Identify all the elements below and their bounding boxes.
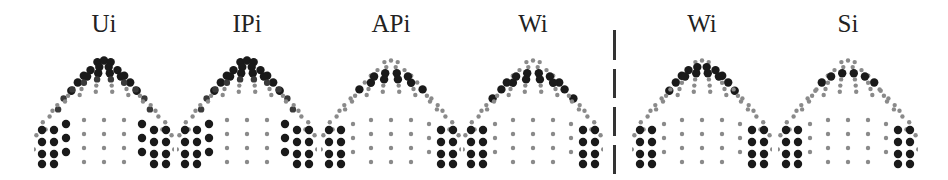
sensor-dot — [495, 94, 499, 98]
sensor-dot — [108, 76, 114, 82]
sensor-dot — [264, 80, 270, 86]
sensor-dot — [305, 138, 313, 146]
sensor-dot — [724, 78, 732, 86]
sensor-dot — [122, 132, 126, 136]
sensor-dot — [437, 138, 445, 146]
sensor-dot — [636, 150, 644, 158]
sensor-dot — [41, 120, 45, 124]
sensor-dot — [122, 160, 126, 164]
sensor-dot — [841, 65, 845, 69]
sensor-dot — [467, 150, 475, 158]
sensor-dot — [284, 99, 288, 103]
sensor-dot — [193, 109, 197, 113]
sensor-dot — [507, 93, 511, 97]
sensor-dot — [832, 68, 836, 72]
sensor-dot — [435, 107, 439, 111]
sensor-dot — [132, 86, 138, 92]
sensor-dot — [225, 132, 229, 136]
sensor-dot — [493, 136, 497, 140]
sensor-dot — [124, 87, 128, 91]
sensor-dot — [81, 80, 87, 86]
sensor-dot — [722, 87, 726, 91]
sensor-dot — [676, 93, 680, 97]
sensor-dot — [436, 103, 440, 107]
sensor-dot — [62, 148, 70, 156]
sensor-dot — [818, 78, 826, 86]
sensor-dot — [380, 75, 388, 83]
sensor-dot — [409, 146, 413, 150]
sensor-dot — [245, 160, 249, 164]
sensor-dot — [177, 147, 179, 151]
sensor-dot — [138, 120, 146, 128]
sensor-dot — [184, 120, 188, 124]
sensor-dot — [708, 83, 712, 87]
sensor-dot — [720, 118, 724, 122]
sensor-dot — [632, 133, 636, 137]
sensor-dot — [342, 103, 346, 107]
sensor-dot — [700, 118, 704, 122]
sensor-dot — [397, 83, 401, 87]
sensor-dot — [539, 90, 543, 94]
sensor-dot — [437, 160, 445, 168]
sensor-dot — [260, 72, 268, 80]
sensor-dot — [427, 122, 431, 126]
sensor-dot — [808, 150, 812, 154]
sensor-dot — [846, 118, 850, 122]
sensor-dot — [794, 126, 802, 134]
sensor-dot — [598, 133, 602, 137]
sensor-dot — [648, 160, 656, 168]
sensor-dot — [531, 118, 535, 122]
sensor-dot — [807, 99, 811, 103]
sensor-dot — [632, 147, 634, 151]
sensor-dot — [839, 60, 843, 64]
sensor-dot — [138, 148, 146, 156]
sensor-dot — [193, 160, 201, 168]
divider-dash — [613, 30, 616, 60]
sensor-dot — [193, 150, 201, 158]
sensor-dot — [267, 87, 271, 91]
sensor-dot — [66, 94, 70, 98]
sensor-dot — [826, 81, 830, 85]
sensor-dot — [38, 160, 46, 168]
sensor-dot — [680, 160, 684, 164]
sensor-dot — [351, 122, 355, 126]
sensor-dot — [868, 87, 872, 91]
panel-wi-right: Wi — [632, 0, 772, 180]
sensor-dot — [312, 133, 316, 137]
sensor-dot — [163, 120, 167, 124]
sensor-dot — [181, 160, 189, 168]
sensor-dot — [838, 83, 842, 87]
sensor-dot — [677, 87, 681, 91]
sensor-dot — [402, 68, 406, 72]
sensor-dot — [846, 146, 850, 150]
sensor-dot — [822, 93, 826, 97]
sensor-dot — [34, 147, 36, 151]
sensor-dot — [245, 146, 249, 150]
sensor-dot — [814, 87, 818, 91]
sensor-dot — [791, 114, 795, 118]
sensor-dot — [467, 126, 475, 134]
sensor-dot — [106, 69, 114, 77]
sensor-dot — [337, 138, 345, 146]
sensor-dot — [778, 147, 780, 151]
sensor-dot — [885, 99, 889, 103]
sensor-dot — [281, 134, 289, 142]
sensor-dot — [551, 160, 555, 164]
sensor-dot — [321, 133, 325, 137]
panel-si: Si — [778, 0, 918, 180]
sensor-dot — [389, 58, 393, 62]
sensor-dot — [524, 60, 528, 64]
sensor-dot — [838, 90, 842, 94]
sensor-dot — [906, 126, 914, 134]
sensor-dot — [281, 94, 285, 98]
sensor-dot — [761, 120, 765, 124]
sensor-dot — [823, 87, 827, 91]
sensor-dot — [102, 118, 106, 122]
sensor-dot — [549, 79, 557, 87]
sensor-dot — [585, 114, 589, 118]
sensor-dot — [693, 77, 697, 81]
sensor-dot — [668, 87, 672, 91]
sensor-dot — [369, 160, 373, 164]
sensor-dot — [265, 132, 269, 136]
sensor-dot — [253, 90, 257, 94]
